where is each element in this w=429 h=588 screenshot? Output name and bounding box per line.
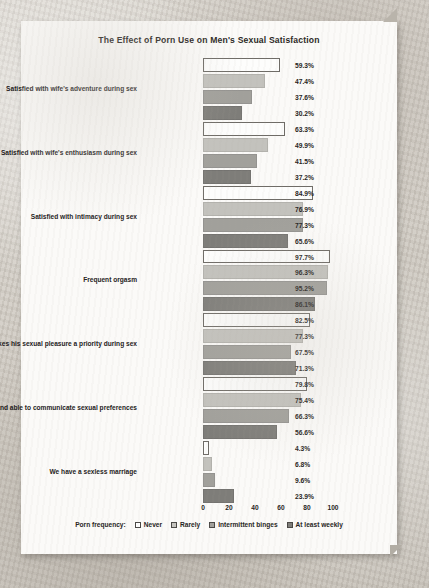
bar-row: 84.9% <box>203 185 333 201</box>
category-label: Satisfied with intimacy during sex <box>31 213 137 220</box>
bar-never[interactable] <box>203 441 209 455</box>
bar-intermittent-binges[interactable] <box>203 409 289 423</box>
chart-sheet: The Effect of Porn Use on Men's Sexual S… <box>21 21 397 554</box>
bar-group: Satisfied with wife's adventure during s… <box>37 57 381 121</box>
bar-value-label: 37.2% <box>295 173 314 180</box>
bar-row: 66.3% <box>203 408 333 424</box>
bar-row: 23.9% <box>203 488 333 504</box>
legend-item-never[interactable]: Never <box>135 521 162 528</box>
bar-value-label: 59.3% <box>295 61 314 68</box>
bar-value-label: 71.3% <box>295 365 314 372</box>
bar-intermittent-binges[interactable] <box>203 90 252 104</box>
bar-stack: 4.3%6.8%9.6%23.9% <box>203 440 333 504</box>
chart-legend: Porn frequency: NeverRarelyIntermittent … <box>21 521 397 528</box>
page-corner-fold-bottom-right-icon <box>390 545 402 557</box>
bar-intermittent-binges[interactable] <box>203 345 291 359</box>
bar-value-label: 82.5% <box>295 317 314 324</box>
bar-group: Frequent orgasm97.7%96.3%95.2%86.1% <box>37 249 381 313</box>
bar-row: 75.4% <box>203 392 333 408</box>
bar-rarely[interactable] <box>203 457 212 471</box>
category-label: We have a sexless marriage <box>50 468 138 475</box>
bar-value-label: 96.3% <box>295 269 314 276</box>
bar-value-label: 30.2% <box>295 109 314 116</box>
bar-group: Satisfied with wife's enthusiasm during … <box>37 121 381 185</box>
bar-row: 6.8% <box>203 456 333 472</box>
bar-at-least-weekly[interactable] <box>203 106 242 120</box>
x-tick-20: 20 <box>225 504 232 511</box>
bar-at-least-weekly[interactable] <box>203 170 251 184</box>
bar-row: 30.2% <box>203 105 333 121</box>
bar-row: 47.4% <box>203 73 333 89</box>
legend-item-intermittent-binges[interactable]: Intermittent binges <box>209 521 277 528</box>
legend-swatch-icon <box>209 522 215 528</box>
bar-value-label: 79.8% <box>295 381 314 388</box>
bar-value-label: 49.9% <box>295 141 314 148</box>
bar-value-label: 9.6% <box>295 476 310 483</box>
bar-row: 49.9% <box>203 137 333 153</box>
x-axis-ticks: 020406080100 <box>203 504 333 518</box>
bar-value-label: 4.3% <box>295 445 310 452</box>
bar-row: 4.3% <box>203 440 333 456</box>
bar-value-label: 41.5% <box>295 157 314 164</box>
legend-item-rarely[interactable]: Rarely <box>171 521 200 528</box>
bar-intermittent-binges[interactable] <box>203 154 257 168</box>
x-tick-40: 40 <box>251 504 258 511</box>
bar-value-label: 77.3% <box>295 221 314 228</box>
x-tick-60: 60 <box>277 504 284 511</box>
bar-row: 65.6% <box>203 233 333 249</box>
bar-value-label: 63.3% <box>295 125 314 132</box>
bar-group: Satisfied with intimacy during sex84.9%7… <box>37 185 381 249</box>
bar-rarely[interactable] <box>203 74 265 88</box>
legend-label: Never <box>144 521 162 528</box>
bar-at-least-weekly[interactable] <box>203 425 277 439</box>
bar-value-label: 65.6% <box>295 237 314 244</box>
bar-stack: 59.3%47.4%37.6%30.2% <box>203 57 333 121</box>
bar-row: 86.1% <box>203 296 333 312</box>
legend-label: Rarely <box>180 521 200 528</box>
bar-row: 77.3% <box>203 217 333 233</box>
bar-value-label: 76.9% <box>295 205 314 212</box>
bar-stack: 79.8%75.4%66.3%56.6% <box>203 376 333 440</box>
bar-never[interactable] <box>203 58 280 72</box>
bar-at-least-weekly[interactable] <box>203 489 234 503</box>
bar-row: 63.3% <box>203 121 333 137</box>
bar-at-least-weekly[interactable] <box>203 361 296 375</box>
category-label: Satisfied with wife's adventure during s… <box>6 85 137 92</box>
bar-at-least-weekly[interactable] <box>203 234 288 248</box>
bar-intermittent-binges[interactable] <box>203 473 215 487</box>
legend-item-at-least-weekly[interactable]: At least weekly <box>287 521 343 528</box>
bar-never[interactable] <box>203 122 285 136</box>
legend-title: Porn frequency: <box>75 521 126 528</box>
legend-label: Intermittent binges <box>218 521 277 528</box>
bar-value-label: 86.1% <box>295 301 314 308</box>
bar-chart-plot: Satisfied with wife's adventure during s… <box>37 57 381 504</box>
page-corner-fold-top-right-icon <box>383 8 397 22</box>
bar-row: 59.3% <box>203 57 333 73</box>
bar-value-label: 47.4% <box>295 77 314 84</box>
bar-row: 41.5% <box>203 153 333 169</box>
bar-group: Husband able to communicate sexual prefe… <box>37 376 381 440</box>
bar-row: 37.6% <box>203 89 333 105</box>
bar-value-label: 95.2% <box>295 285 314 292</box>
bar-row: 96.3% <box>203 264 333 280</box>
bar-value-label: 97.7% <box>295 253 314 260</box>
bar-value-label: 75.4% <box>295 397 314 404</box>
bar-value-label: 77.3% <box>295 333 314 340</box>
x-tick-0: 0 <box>201 504 205 511</box>
bar-value-label: 6.8% <box>295 460 310 467</box>
bar-group: We have a sexless marriage4.3%6.8%9.6%23… <box>37 440 381 504</box>
bar-rarely[interactable] <box>203 138 268 152</box>
bar-value-label: 37.6% <box>295 93 314 100</box>
x-tick-80: 80 <box>303 504 310 511</box>
bar-row: 9.6% <box>203 472 333 488</box>
bar-row: 71.3% <box>203 360 333 376</box>
bar-value-label: 23.9% <box>295 492 314 499</box>
bar-row: 76.9% <box>203 201 333 217</box>
legend-label: At least weekly <box>296 521 343 528</box>
bar-value-label: 56.6% <box>295 429 314 436</box>
legend-swatch-icon <box>171 522 177 528</box>
bar-row: 67.5% <box>203 344 333 360</box>
bar-row: 82.5% <box>203 312 333 328</box>
bar-row: 79.8% <box>203 376 333 392</box>
bar-stack: 84.9%76.9%77.3%65.6% <box>203 185 333 249</box>
